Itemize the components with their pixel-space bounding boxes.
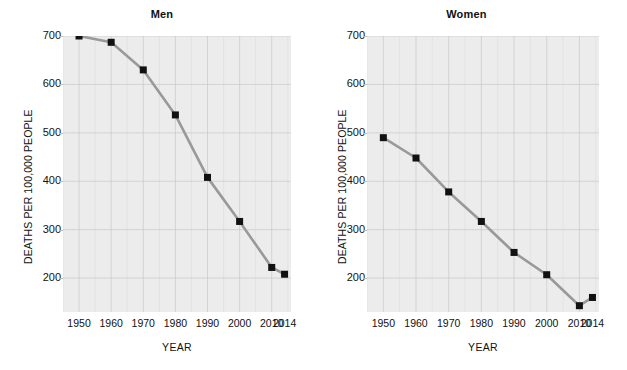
x-axis-label-men: YEAR <box>63 341 291 353</box>
y-axis-tick-label: 200 <box>27 271 61 283</box>
data-point-marker <box>204 174 211 181</box>
plot-svg-women <box>367 36 599 312</box>
plot-svg-men <box>63 36 291 312</box>
y-axis-tick-mark <box>363 181 367 182</box>
data-point-marker <box>511 249 518 256</box>
data-point-marker <box>268 264 275 271</box>
data-point-marker <box>76 36 83 40</box>
y-axis-tick-label: 500 <box>27 126 61 138</box>
chart-title-men: Men <box>2 8 322 20</box>
plot-area-men <box>63 36 291 312</box>
data-point-marker <box>589 294 596 301</box>
y-axis-tick-mark <box>363 84 367 85</box>
chart-panel-men: Men DEATHS PER 100,000 PEOPLE YEAR 20030… <box>0 0 320 370</box>
y-axis-tick-label: 500 <box>331 126 365 138</box>
data-series-line <box>79 36 285 274</box>
y-axis-tick-mark <box>59 84 63 85</box>
chart-title-women: Women <box>308 8 625 20</box>
x-axis-label-women: YEAR <box>367 341 599 353</box>
y-axis-tick-mark <box>59 133 63 134</box>
x-axis-tick-label: 2014 <box>572 317 612 329</box>
y-axis-tick-label: 700 <box>331 29 365 41</box>
y-axis-tick-mark <box>59 230 63 231</box>
data-point-marker <box>445 188 452 195</box>
y-axis-tick-label: 200 <box>331 271 365 283</box>
data-point-marker <box>172 111 179 118</box>
y-axis-tick-label: 700 <box>27 29 61 41</box>
y-axis-tick-label: 300 <box>27 223 61 235</box>
y-axis-tick-mark <box>59 36 63 37</box>
figure-canvas: Men DEATHS PER 100,000 PEOPLE YEAR 20030… <box>0 0 627 370</box>
data-point-marker <box>478 218 485 225</box>
y-axis-tick-mark <box>363 278 367 279</box>
data-point-marker <box>281 271 288 278</box>
data-point-marker <box>140 66 147 73</box>
y-axis-tick-mark <box>59 278 63 279</box>
data-series-line <box>383 138 592 306</box>
y-axis-tick-label: 600 <box>331 77 365 89</box>
y-axis-tick-mark <box>363 36 367 37</box>
data-point-marker <box>413 155 420 162</box>
y-axis-tick-mark <box>363 230 367 231</box>
data-point-marker <box>543 271 550 278</box>
data-point-marker <box>380 134 387 141</box>
x-axis-tick-label: 2014 <box>265 317 305 329</box>
y-axis-tick-label: 400 <box>331 174 365 186</box>
y-axis-tick-mark <box>363 133 367 134</box>
plot-area-women <box>367 36 599 312</box>
data-point-marker <box>236 218 243 225</box>
y-axis-tick-label: 600 <box>27 77 61 89</box>
data-point-marker <box>576 302 583 309</box>
y-axis-tick-label: 400 <box>27 174 61 186</box>
chart-panel-women: Women DEATHS PER 100,000 PEOPLE YEAR 200… <box>310 0 627 370</box>
y-axis-tick-mark <box>59 181 63 182</box>
y-axis-tick-label: 300 <box>331 223 365 235</box>
data-point-marker <box>108 39 115 46</box>
